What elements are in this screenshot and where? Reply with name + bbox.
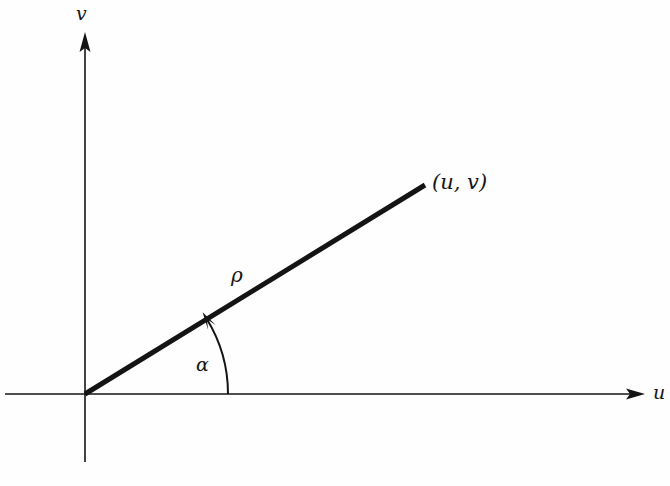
angle-arc xyxy=(207,319,228,394)
alpha-angle-label: α xyxy=(196,355,209,374)
diagram-canvas xyxy=(0,0,670,486)
radius-vector-line xyxy=(85,185,425,394)
u-axis-label: u xyxy=(653,383,665,402)
rho-length-label: ρ xyxy=(231,265,243,285)
v-axis-label: v xyxy=(76,4,87,23)
polar-coordinates-diagram: v u (u, v) ρ α xyxy=(0,0,670,486)
point-coordinates-label: (u, v) xyxy=(432,172,487,193)
